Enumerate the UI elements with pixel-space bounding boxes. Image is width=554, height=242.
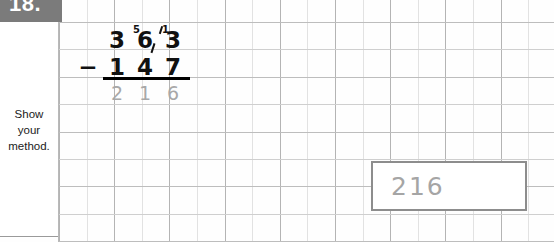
result-row: 2 1 6	[103, 80, 193, 108]
question-number-label: 18.	[9, 0, 41, 17]
column-divider	[58, 22, 59, 242]
grid-line-vertical	[363, 0, 364, 23]
instruction-line-1: Show	[0, 106, 58, 122]
grid-line-horizontal	[59, 132, 554, 133]
grid-line-horizontal	[59, 214, 554, 215]
grid-line-vertical	[169, 0, 170, 23]
question-number-tag: 18.	[0, 0, 62, 22]
grid-line-horizontal	[59, 159, 554, 160]
regroup-mark-tens: 5	[133, 25, 140, 35]
minuend-row: 3 6 3 5 1	[103, 26, 193, 54]
grid-line-vertical	[418, 0, 419, 23]
grid-line-vertical	[528, 0, 529, 23]
instruction-line-3: method.	[0, 138, 58, 154]
minuend-digit-hundreds: 3	[103, 26, 131, 54]
instruction-line-2: your	[0, 122, 58, 138]
bottom-rule	[0, 236, 58, 237]
result-digit-hundreds: 2	[103, 80, 131, 106]
grid-line-vertical	[501, 0, 502, 23]
answer-box-value: 216	[391, 172, 445, 202]
grid-line-vertical	[87, 0, 88, 23]
grid-line-vertical	[252, 0, 253, 23]
instruction-column: Show your method.	[0, 22, 58, 238]
grid-line-vertical	[445, 0, 446, 23]
result-digit-ones: 6	[159, 80, 187, 106]
grid-line-vertical	[114, 0, 115, 23]
answer-box[interactable]: 216	[371, 161, 527, 211]
grid-top-strip	[59, 0, 554, 23]
column-subtraction: 3 6 3 5 1 − 1 4 7 2 1 6	[103, 22, 193, 106]
grid-line-vertical	[280, 0, 281, 23]
worksheet-page: Show your method. 18. 3 6 3 5 1 − 1 4 7 …	[0, 0, 554, 242]
grid-line-vertical	[225, 0, 226, 23]
minus-sign: −	[75, 53, 101, 81]
grid-line-vertical	[335, 0, 336, 23]
subtraction-rule	[103, 77, 190, 80]
regroup-mark-ones: 1	[162, 25, 169, 35]
grid-line-vertical	[390, 0, 391, 23]
grid-line-vertical	[473, 0, 474, 23]
grid-line-vertical	[142, 0, 143, 23]
grid-line-vertical	[197, 0, 198, 23]
result-digit-tens: 1	[131, 80, 159, 106]
instruction-text: Show your method.	[0, 106, 58, 154]
grid-line-vertical	[307, 0, 308, 23]
